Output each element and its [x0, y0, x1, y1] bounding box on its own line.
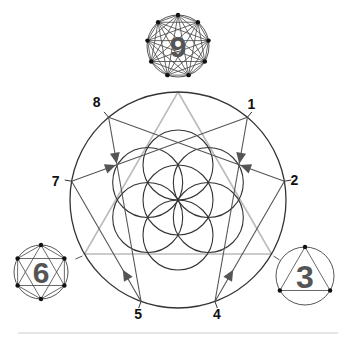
point-tick [65, 180, 72, 181]
arrow-icon [238, 160, 252, 173]
vertex-dot [62, 256, 66, 260]
vertex-dot [145, 38, 149, 42]
triangle-3-6-9 [84, 92, 271, 254]
arrow-icon [223, 267, 237, 282]
point-label-7: 7 [52, 173, 60, 189]
point-label-8: 8 [93, 94, 101, 110]
vertex-dot [278, 288, 282, 292]
arrow-icon [104, 160, 118, 173]
vertex-dot [156, 20, 160, 24]
point-label-2: 2 [290, 172, 298, 188]
enneagram-diagram: 963 124578 [0, 0, 354, 347]
vertex-dot [303, 245, 307, 249]
satellite-number-six: 6 [33, 256, 50, 289]
vertex-dot [203, 59, 207, 63]
satellite-three: 3 [276, 245, 334, 305]
vertex-dot [39, 243, 43, 247]
enneagram-svg: 963 124578 [0, 0, 354, 347]
vertex-dot [196, 20, 200, 24]
satellite-six: 6 [14, 243, 68, 301]
point-label-1: 1 [248, 96, 256, 112]
point-tick [104, 112, 108, 117]
vertex-dot [149, 59, 153, 63]
point-label-5: 5 [134, 306, 142, 322]
point-label-4: 4 [213, 306, 221, 322]
vertex-dot [15, 256, 19, 260]
vertex-dot [176, 13, 180, 17]
vertex-dot [186, 73, 190, 77]
satellite-number-three: 3 [296, 259, 314, 295]
vertex-dot [206, 38, 210, 42]
vertex-dot [328, 288, 332, 292]
arrow-icon [118, 267, 132, 282]
arrow-icon [234, 152, 246, 165]
connector-6 [75, 256, 82, 259]
arrow-icon [110, 152, 122, 165]
vertex-dot [39, 297, 43, 301]
vertex-dot [165, 73, 169, 77]
satellite-number-nine: 9 [170, 30, 187, 63]
point-tick [247, 112, 251, 117]
connector-3 [274, 256, 280, 260]
vertex-dot [62, 283, 66, 287]
satellite-nine: 9 [145, 13, 210, 78]
vertex-dot [15, 283, 19, 287]
